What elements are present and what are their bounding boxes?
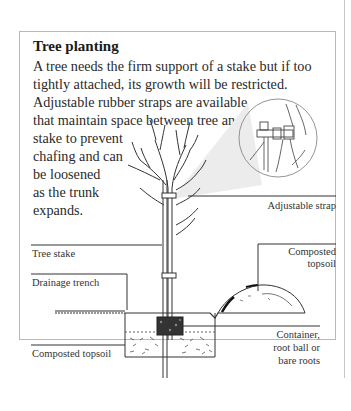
label-drainage-trench: Drainage trench	[32, 277, 99, 289]
label-container-1: Container,	[236, 329, 320, 341]
label-tree-stake: Tree stake	[32, 248, 75, 260]
tree-stake-icon	[162, 180, 176, 378]
label-container-3: bare roots	[236, 355, 320, 367]
label-adjustable-strap: Adjustable strap	[236, 200, 336, 212]
label-container-2: root ball or	[236, 342, 320, 354]
label-composted-topsoil-heap-1: Composted	[236, 246, 336, 258]
label-composted-topsoil-bottom: Composted topsoil	[32, 348, 111, 360]
soil-heap-icon	[218, 285, 305, 313]
label-composted-topsoil-heap-2: topsoil	[236, 258, 336, 270]
trench-cross-section-icon	[125, 313, 215, 357]
